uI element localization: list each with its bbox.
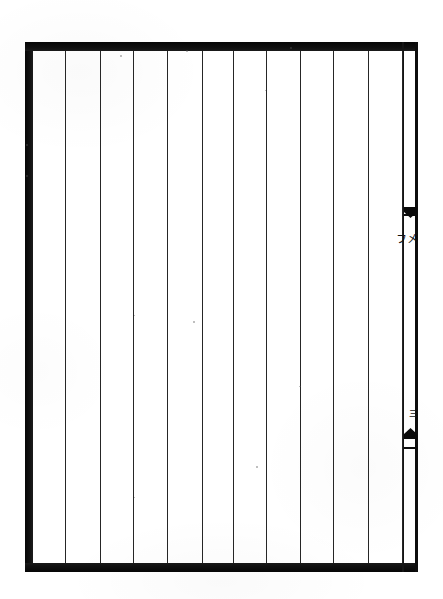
- column-rule-3: [133, 51, 134, 563]
- column-rule-2: [100, 51, 101, 563]
- border-rule-top: [25, 42, 418, 51]
- ink-speck: [193, 321, 195, 323]
- ink-speck: [134, 315, 135, 316]
- ink-speck: [300, 386, 301, 387]
- centre-fold-strip: 㐅 フ 三: [404, 51, 415, 563]
- ink-speck: [265, 90, 266, 91]
- column-rule-1: [65, 51, 66, 563]
- border-rule-left: [25, 42, 33, 572]
- fold-tick-lower: [404, 447, 417, 449]
- column-rule-11: [402, 51, 403, 563]
- ink-speck: [134, 497, 135, 498]
- column-rule-5: [202, 51, 203, 563]
- border-rule-bottom: [25, 563, 418, 572]
- block-border-frame: 㐅 フ 三: [25, 42, 418, 572]
- ink-speck: [256, 466, 258, 468]
- column-rule-10: [368, 51, 369, 563]
- column-rule-6: [233, 51, 234, 563]
- ink-speck: [290, 47, 292, 49]
- column-rule-7: [266, 51, 267, 563]
- fold-inscription-lower: 三: [403, 409, 417, 419]
- ink-speck: [26, 175, 28, 177]
- column-rule-8: [300, 51, 301, 563]
- column-rule-9: [333, 51, 334, 563]
- column-rule-4: [167, 51, 168, 563]
- border-rule-right-outer: [415, 42, 418, 572]
- ink-speck: [26, 144, 28, 146]
- scanned-page: 㐅 フ 三: [0, 0, 443, 599]
- ink-speck: [120, 55, 122, 57]
- fold-inscription-upper: 㐅 フ: [403, 233, 417, 245]
- ink-speck: [186, 50, 188, 52]
